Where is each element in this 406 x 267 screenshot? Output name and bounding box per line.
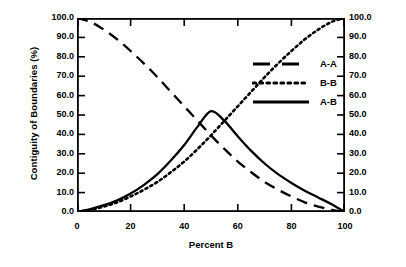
x-axis-label: Percent B [77, 239, 345, 250]
plot-area: A-AB-BA-B [77, 18, 345, 212]
data-series-group [77, 18, 345, 212]
plot-frame [78, 19, 344, 211]
series-line-a-a [77, 18, 345, 212]
legend-swatch-b-b [252, 78, 310, 88]
x-tick-label-3: 60 [233, 221, 243, 231]
x-tick-label-2: 40 [179, 221, 189, 231]
legend-item-a-a: A-A [252, 54, 372, 73]
x-tick-label-1: 20 [126, 221, 136, 231]
axis-ticks [78, 19, 344, 211]
x-tick-label-0: 0 [74, 221, 79, 231]
plot-svg [77, 18, 345, 212]
legend-item-b-b: B-B [252, 73, 372, 92]
series-line-b-b [77, 18, 345, 212]
legend-swatch-a-b [252, 97, 310, 107]
x-tick-label-5: 100 [337, 221, 352, 231]
series-line-a-b [77, 111, 345, 212]
chart-figure: Contiguity of Boundaries (%) 0.010.020.0… [0, 0, 406, 267]
legend-swatch-a-a [252, 59, 310, 69]
chart-legend: A-AB-BA-B [252, 54, 372, 111]
legend-label: A-B [320, 96, 337, 107]
legend-label: A-A [320, 58, 337, 69]
x-tick-label-4: 80 [286, 221, 296, 231]
legend-label: B-B [320, 77, 337, 88]
legend-item-a-b: A-B [252, 92, 372, 111]
